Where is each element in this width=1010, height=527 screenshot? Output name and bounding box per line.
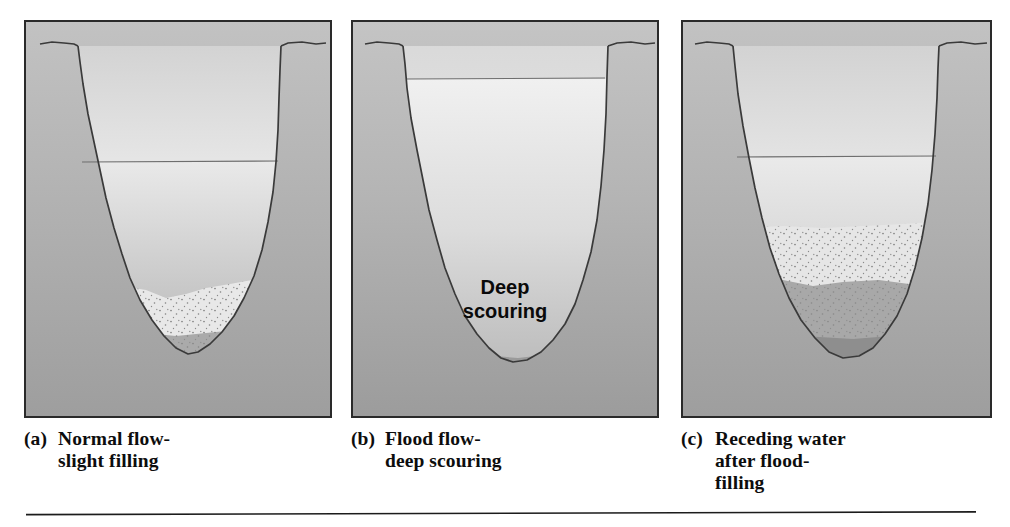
panel-c-diagram — [683, 22, 990, 416]
caption-tag-c: (c) — [681, 428, 715, 450]
caption-tag-a: (a) — [24, 428, 58, 450]
panel-b-diagram: Deep scouring — [353, 22, 657, 416]
deep-scouring-label-line1: Deep — [481, 276, 530, 298]
caption-text-c: Receding water after flood- filling — [715, 428, 991, 493]
panel-b-flood-flow: Deep scouring — [351, 20, 659, 418]
panel-a-diagram — [26, 22, 330, 416]
panel-c-receding-water — [681, 20, 992, 418]
caption-text-a: Normal flow- slight filling — [58, 428, 324, 472]
deep-scouring-label-line2: scouring — [463, 300, 547, 322]
bottom-rule-line — [26, 511, 976, 516]
caption-panel-c: (c) Receding water after flood- filling — [681, 428, 991, 493]
caption-panel-a: (a) Normal flow- slight filling — [24, 428, 324, 472]
bottom-horizontal-rule — [26, 511, 976, 516]
caption-panel-b: (b) Flood flow- deep scouring — [351, 428, 651, 472]
caption-tag-b: (b) — [351, 428, 385, 450]
caption-text-b: Flood flow- deep scouring — [385, 428, 651, 472]
figure-root: Deep scouring — [0, 0, 1010, 527]
panel-a-normal-flow — [24, 20, 332, 418]
